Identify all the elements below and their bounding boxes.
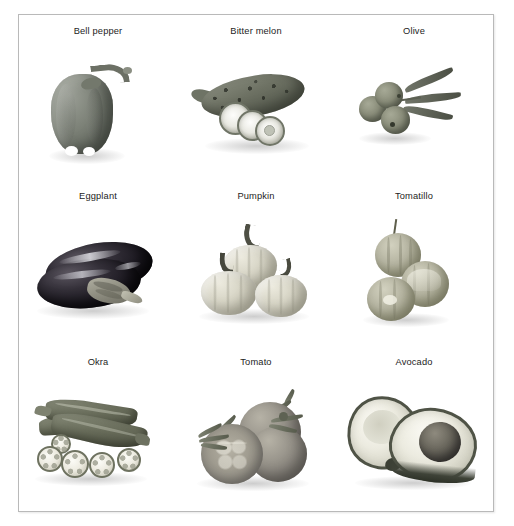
specimen-label: Okra bbox=[88, 357, 109, 368]
specimen-grid: Bell pepper Bitter melon bbox=[19, 15, 493, 511]
specimen-cell-bitter-melon: Bitter melon bbox=[177, 15, 335, 180]
specimen-cell-avocado: Avocado bbox=[335, 346, 493, 511]
specimen-label: Avocado bbox=[395, 357, 432, 368]
specimen-image-olive bbox=[335, 37, 493, 180]
specimen-label: Pumpkin bbox=[237, 191, 274, 202]
tomato-icon bbox=[187, 384, 325, 494]
specimen-label: Bitter melon bbox=[230, 26, 281, 37]
tomatillo-icon bbox=[345, 219, 483, 329]
specimen-image-bitter-melon bbox=[177, 37, 335, 180]
specimen-label: Bell pepper bbox=[74, 26, 123, 37]
specimen-image-bell-pepper bbox=[19, 37, 177, 180]
specimen-image-eggplant bbox=[19, 202, 177, 345]
specimen-cell-olive: Olive bbox=[335, 15, 493, 180]
olive-icon bbox=[345, 54, 483, 164]
specimen-cell-okra: Okra bbox=[19, 346, 177, 511]
specimen-label: Olive bbox=[403, 26, 425, 37]
specimen-image-tomato bbox=[177, 368, 335, 511]
pumpkin-icon bbox=[187, 219, 325, 329]
specimen-label: Tomatillo bbox=[395, 191, 433, 202]
bell-pepper-icon bbox=[29, 54, 167, 164]
figure-panel: Bell pepper Bitter melon bbox=[18, 14, 494, 512]
specimen-cell-tomato: Tomato bbox=[177, 346, 335, 511]
specimen-label: Eggplant bbox=[79, 191, 117, 202]
avocado-icon bbox=[345, 384, 483, 494]
specimen-image-okra bbox=[19, 368, 177, 511]
specimen-image-avocado bbox=[335, 368, 493, 511]
eggplant-icon bbox=[29, 219, 167, 329]
okra-icon bbox=[29, 384, 167, 494]
specimen-cell-pumpkin: Pumpkin bbox=[177, 180, 335, 345]
specimen-cell-bell-pepper: Bell pepper bbox=[19, 15, 177, 180]
specimen-image-tomatillo bbox=[335, 202, 493, 345]
specimen-label: Tomato bbox=[240, 357, 271, 368]
specimen-cell-tomatillo: Tomatillo bbox=[335, 180, 493, 345]
bitter-melon-icon bbox=[187, 54, 325, 164]
specimen-cell-eggplant: Eggplant bbox=[19, 180, 177, 345]
specimen-image-pumpkin bbox=[177, 202, 335, 345]
